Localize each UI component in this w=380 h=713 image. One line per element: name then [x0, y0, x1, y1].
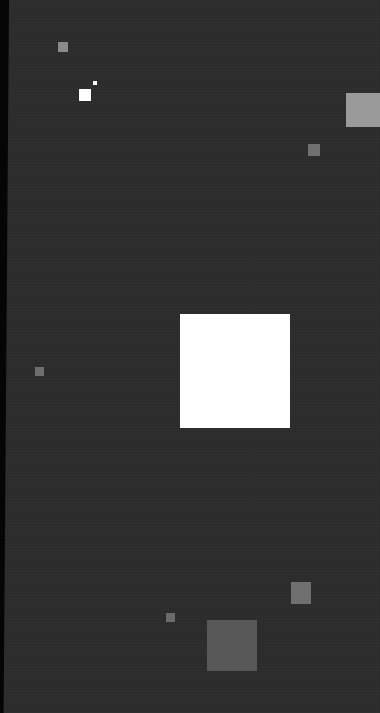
light-gray-square-top-right-shape: [346, 93, 380, 127]
gray-square-top-left-shape: [58, 42, 68, 52]
left-edge-strip: [0, 0, 9, 713]
gray-square-bottom-right-shape: [291, 582, 311, 604]
gray-square-right-shape: [308, 144, 320, 156]
gray-square-left-shape: [35, 367, 44, 376]
gray-square-bottom-large-shape: [207, 620, 257, 671]
white-square-top-left-shape: [79, 89, 91, 101]
abstract-canvas: [0, 0, 380, 713]
white-square-center-shape: [180, 314, 290, 428]
white-dot-top-left-shape: [93, 81, 97, 85]
gray-square-bottom-small-shape: [166, 613, 175, 622]
